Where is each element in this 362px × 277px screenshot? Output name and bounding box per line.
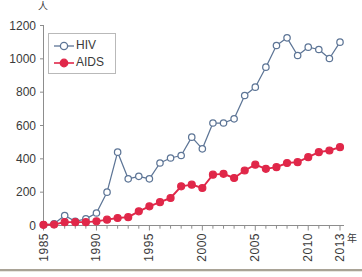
- y-axis-tick-label: 400: [2, 153, 36, 165]
- y-axis-tick-label: 1200: [2, 20, 36, 32]
- legend-marker-open-circle-icon: [53, 39, 75, 53]
- y-axis-tick-label: 200: [2, 186, 36, 198]
- x-axis-unit-label: 年: [347, 234, 357, 244]
- y-axis-tick-label: 600: [2, 120, 36, 132]
- legend-marker-filled-circle-icon: [53, 56, 75, 70]
- x-axis-tick-label: 2013: [334, 233, 346, 262]
- x-axis-tick-label: 2005: [249, 233, 261, 262]
- y-axis-tick-label: 1000: [2, 53, 36, 65]
- legend-item-aids: AIDS: [53, 54, 115, 71]
- y-axis-tick-label: 0: [2, 220, 36, 232]
- legend-label-aids: AIDS: [76, 56, 104, 69]
- bottom-divider: [0, 269, 362, 272]
- x-axis-tick-label: 1995: [143, 233, 155, 262]
- y-axis-tick-label: 800: [2, 86, 36, 98]
- legend-label-hiv: HIV: [76, 39, 96, 52]
- x-axis-tick-label: 1990: [90, 233, 102, 262]
- chart-legend: HIV AIDS: [48, 33, 116, 74]
- legend-item-hiv: HIV: [53, 37, 115, 54]
- x-axis-tick-label: 2000: [196, 233, 208, 262]
- x-axis-tick-label: 1985: [38, 233, 50, 262]
- chart-container: 人 020040060080010001200 1985199019952000…: [0, 0, 362, 277]
- x-axis-tick-label: 2010: [302, 233, 314, 262]
